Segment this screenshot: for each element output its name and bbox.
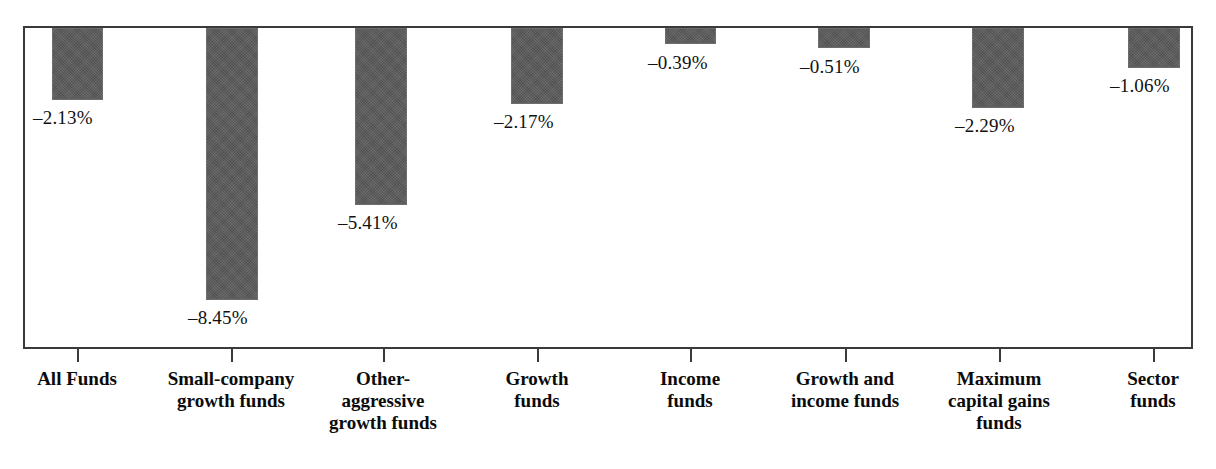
bar-growth-funds: [511, 28, 563, 104]
category-line: Income: [600, 368, 780, 390]
axis-tick-3: [383, 349, 385, 362]
axis-tick-6: [845, 349, 847, 362]
value-label-maximum-capital-gains-funds: –2.29%: [955, 115, 1015, 137]
value-label-small-company-growth-funds: –8.45%: [188, 307, 248, 329]
axis-tick-8: [1153, 349, 1155, 362]
category-line: aggressive: [293, 390, 473, 412]
category-label-growth-and-income-funds: Growth and income funds: [755, 368, 935, 412]
axis-tick-1: [77, 349, 79, 362]
bar-small-company-growth-funds: [206, 28, 258, 300]
category-line: funds: [909, 412, 1089, 434]
category-line: Growth and: [755, 368, 935, 390]
category-line: income funds: [755, 390, 935, 412]
category-line: growth funds: [293, 412, 473, 434]
value-label-sector-funds: –1.06%: [1110, 75, 1170, 97]
category-line: funds: [1063, 390, 1216, 412]
bar-income-funds: [665, 28, 716, 44]
value-label-all-funds: –2.13%: [33, 107, 93, 129]
category-label-other-aggressive-growth-funds: Other- aggressive growth funds: [293, 368, 473, 434]
category-label-income-funds: Income funds: [600, 368, 780, 412]
value-label-income-funds: –0.39%: [648, 52, 708, 74]
bar-other-aggressive-growth-funds: [355, 28, 407, 205]
category-line: Sector: [1063, 368, 1216, 390]
category-line: Maximum: [909, 368, 1089, 390]
category-label-maximum-capital-gains-funds: Maximum capital gains funds: [909, 368, 1089, 434]
category-line: Other-: [293, 368, 473, 390]
axis-tick-5: [690, 349, 692, 362]
value-label-growth-funds: –2.17%: [494, 111, 554, 133]
bar-all-funds: [52, 28, 103, 100]
axis-tick-4: [537, 349, 539, 362]
category-line: funds: [600, 390, 780, 412]
bar-growth-and-income-funds: [818, 28, 870, 48]
bar-maximum-capital-gains-funds: [972, 28, 1024, 108]
bar-sector-funds: [1128, 28, 1180, 68]
value-label-other-aggressive-growth-funds: –5.41%: [338, 212, 398, 234]
bar-chart: –2.13% –8.45% –5.41% –2.17% –0.39% –0.51…: [0, 0, 1216, 469]
category-label-sector-funds: Sector funds: [1063, 368, 1216, 412]
category-line: capital gains: [909, 390, 1089, 412]
axis-tick-2: [231, 349, 233, 362]
axis-tick-7: [999, 349, 1001, 362]
value-label-growth-and-income-funds: –0.51%: [800, 56, 860, 78]
